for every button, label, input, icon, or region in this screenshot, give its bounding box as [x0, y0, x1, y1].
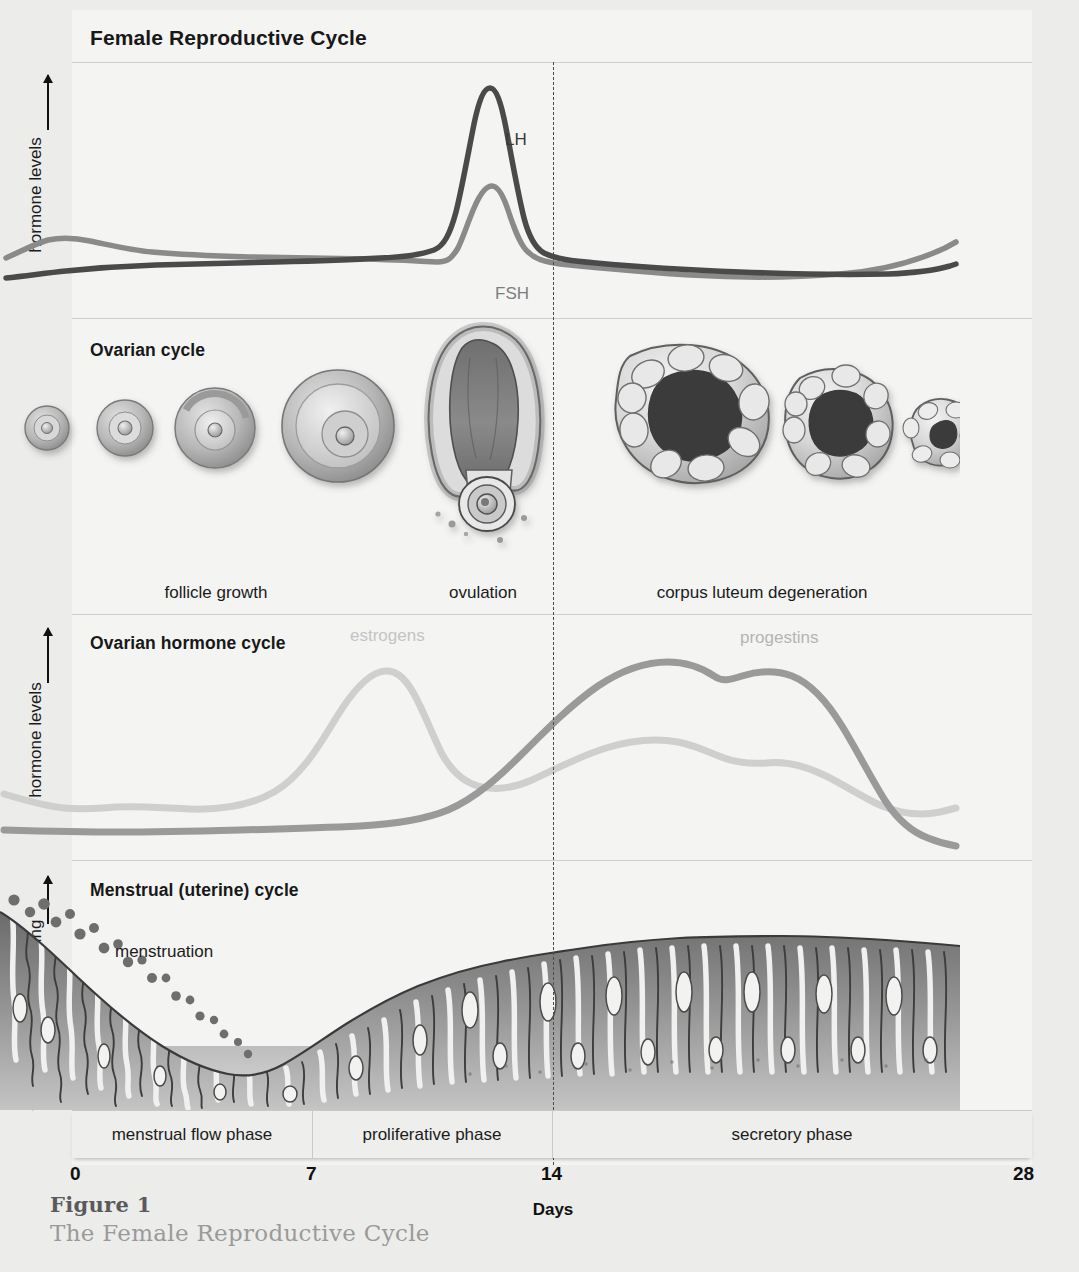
stage-caption-follicle-growth: follicle growth: [165, 583, 268, 603]
xtick-28: 28: [1013, 1163, 1034, 1185]
panel-ovarian-hormone: estrogens progestins: [0, 614, 960, 860]
stage-caption-corpus-luteum: corpus luteum degeneration: [657, 583, 868, 603]
fsh-label: FSH: [495, 284, 529, 304]
ovulation-dashed-line: [553, 62, 554, 1165]
phase-secretory: secretory phase: [552, 1111, 1032, 1158]
corpus-luteum-stage-1: [615, 343, 771, 484]
ovarian-hormone-curves: [0, 614, 960, 860]
progestins-curve: [4, 662, 956, 846]
figure-caption-title: The Female Reproductive Cycle: [50, 1220, 430, 1246]
panel-gonadotropic: LH FSH: [0, 62, 960, 318]
follicle-stage-3: [175, 388, 255, 468]
figure-number: Figure 1: [50, 1192, 430, 1217]
phase-bar: menstrual flow phase proliferative phase…: [72, 1110, 1032, 1158]
phase-proliferative: proliferative phase: [312, 1111, 553, 1158]
chart-title: Female Reproductive Cycle: [90, 26, 367, 50]
corpus-luteum-stage-2: [783, 365, 893, 480]
phase-menstrual-flow: menstrual flow phase: [72, 1111, 313, 1158]
stage-caption-ovulation: ovulation: [449, 583, 517, 603]
corpus-albicans: [903, 399, 960, 468]
follicle-stage-4: [282, 370, 394, 482]
panel-menstrual: menstruation: [0, 860, 960, 1110]
follicle-stage-2: [97, 400, 153, 456]
gonadotropic-curves: [0, 62, 960, 318]
ovum-icon: [459, 477, 515, 531]
lh-label: LH: [505, 130, 527, 150]
progestins-label: progestins: [740, 628, 818, 648]
ovulation-illustration: [429, 327, 541, 544]
endometrium-functional-layer: [0, 900, 960, 1110]
figure-root: Female Reproductive Cycle hormone levels…: [0, 0, 1079, 1272]
follicle-stage-1: [25, 406, 69, 450]
xtick-7: 7: [306, 1163, 317, 1185]
estrogens-label: estrogens: [350, 626, 425, 646]
xaxis-title: Days: [533, 1200, 574, 1220]
xtick-14: 14: [541, 1163, 562, 1185]
xtick-0: 0: [70, 1163, 81, 1185]
ovarian-illustrations: [0, 318, 960, 614]
figure-caption: Figure 1 The Female Reproductive Cycle: [50, 1192, 430, 1246]
menstruation-annotation: menstruation: [115, 942, 213, 962]
endometrium-illustration: [0, 860, 960, 1110]
panel-ovarian: follicle growth ovulation corpus luteum …: [0, 318, 960, 614]
